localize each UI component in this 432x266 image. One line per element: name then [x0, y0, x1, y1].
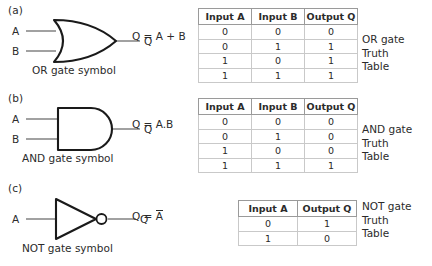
- not-input-a-label: A: [12, 213, 19, 225]
- and-gate-caption: AND gate symbol: [22, 152, 113, 164]
- table-row: 0 0 0: [199, 115, 358, 130]
- column-header-output-q: Output Q: [298, 201, 357, 217]
- section-label-b: (b): [8, 92, 23, 104]
- cell-input-a: 0: [199, 129, 252, 144]
- cell-input-b: 0: [252, 25, 305, 40]
- cell-input-a: 0: [239, 217, 298, 232]
- column-header-input-b: Input B: [252, 9, 305, 25]
- and-table-caption: AND gate Truth Table: [362, 123, 412, 164]
- not-truth-table: Input A Output Q 0 1 1 0: [238, 200, 357, 246]
- table-row: 0 1: [239, 217, 357, 232]
- column-header-input-a: Input A: [199, 99, 252, 115]
- section-label-a: (a): [8, 4, 23, 16]
- table-row: 0 1 0: [199, 129, 358, 144]
- inversion-bubble-icon: [97, 214, 107, 224]
- cell-output-q: 0: [298, 231, 357, 246]
- cell-output-q: 0: [305, 25, 358, 40]
- cell-input-b: 1: [252, 39, 305, 54]
- cell-input-b: 1: [252, 129, 305, 144]
- and-table-caption-line-3: Table: [362, 150, 412, 164]
- cell-output-q: 0: [305, 144, 358, 159]
- not-equation-prefix: Q =: [132, 210, 156, 222]
- column-header-input-b: Input B: [252, 99, 305, 115]
- cell-output-q: 0: [305, 129, 358, 144]
- cell-input-a: 1: [239, 231, 298, 246]
- table-row: 0 0 0: [199, 25, 358, 40]
- not-gate-diagram: A Q NOT gate symbol: [8, 194, 188, 252]
- not-table-caption-line-2: Truth: [362, 214, 412, 228]
- table-header-row: Input A Input B Output Q: [199, 99, 358, 115]
- and-input-b-label: B: [12, 133, 19, 145]
- cell-input-a: 0: [199, 25, 252, 40]
- table-row: 0 1 1: [199, 39, 358, 54]
- or-table-caption-line-1: OR gate: [362, 33, 405, 47]
- table-row: 1 1 1: [199, 158, 358, 173]
- and-gate-diagram: A B Q AND gate symbol: [8, 104, 188, 162]
- table-row: 1 0: [239, 231, 357, 246]
- or-input-a-label: A: [12, 25, 19, 37]
- table-row: 1 0 0: [199, 144, 358, 159]
- table-header-row: Input A Input B Output Q: [199, 9, 358, 25]
- cell-input-b: 0: [252, 115, 305, 130]
- section-label-c: (c): [8, 182, 22, 194]
- cell-output-q: 0: [305, 115, 358, 130]
- and-truth-table: Input A Input B Output Q 0 0 0 0 1 0 1 0…: [198, 98, 358, 173]
- section-or-gate: (a) A B Q OR gate symbol Q = A + B Input…: [0, 0, 432, 88]
- not-table-caption-line-3: Table: [362, 227, 412, 241]
- cell-input-b: 1: [252, 158, 305, 173]
- cell-input-b: 0: [252, 54, 305, 69]
- table-row: 1 1 1: [199, 68, 358, 83]
- or-table-caption-line-2: Truth: [362, 47, 405, 61]
- not-table-caption-line-1: NOT gate: [362, 200, 412, 214]
- cell-output-q: 1: [298, 217, 357, 232]
- and-gate-equation: Q = A.B: [132, 118, 173, 130]
- not-gate-caption: NOT gate symbol: [22, 242, 113, 254]
- column-header-input-a: Input A: [239, 201, 298, 217]
- column-header-output-q: Output Q: [305, 99, 358, 115]
- section-not-gate: (c) A Q NOT gate symbol Q = A Input A Ou…: [0, 178, 432, 266]
- not-gate-equation: Q = A: [132, 210, 163, 222]
- cell-input-b: 0: [252, 144, 305, 159]
- cell-input-a: 1: [199, 158, 252, 173]
- not-table-caption: NOT gate Truth Table: [362, 200, 412, 241]
- cell-input-a: 1: [199, 144, 252, 159]
- cell-output-q: 1: [305, 158, 358, 173]
- and-table-caption-line-2: Truth: [362, 137, 412, 151]
- or-input-b-label: B: [12, 45, 19, 57]
- column-header-input-a: Input A: [199, 9, 252, 25]
- or-table-caption-line-3: Table: [362, 60, 405, 74]
- column-header-output-q: Output Q: [305, 9, 358, 25]
- cell-input-a: 1: [199, 68, 252, 83]
- or-gate-caption: OR gate symbol: [32, 64, 116, 76]
- and-input-a-label: A: [12, 113, 19, 125]
- and-table-caption-line-1: AND gate: [362, 123, 412, 137]
- cell-output-q: 1: [305, 54, 358, 69]
- cell-input-b: 1: [252, 68, 305, 83]
- not-equation-overbar-term: A: [156, 210, 163, 222]
- table-row: 1 0 1: [199, 54, 358, 69]
- cell-output-q: 1: [305, 39, 358, 54]
- or-truth-table: Input A Input B Output Q 0 0 0 0 1 1 1 0…: [198, 8, 358, 83]
- or-gate-diagram: A B Q OR gate symbol: [8, 16, 188, 74]
- cell-input-a: 0: [199, 115, 252, 130]
- or-table-caption: OR gate Truth Table: [362, 33, 405, 74]
- table-header-row: Input A Output Q: [239, 201, 357, 217]
- or-gate-equation: Q = A + B: [132, 30, 186, 42]
- section-and-gate: (b) A B Q AND gate symbol Q = A.B Input …: [0, 88, 432, 178]
- cell-input-a: 1: [199, 54, 252, 69]
- cell-input-a: 0: [199, 39, 252, 54]
- cell-output-q: 1: [305, 68, 358, 83]
